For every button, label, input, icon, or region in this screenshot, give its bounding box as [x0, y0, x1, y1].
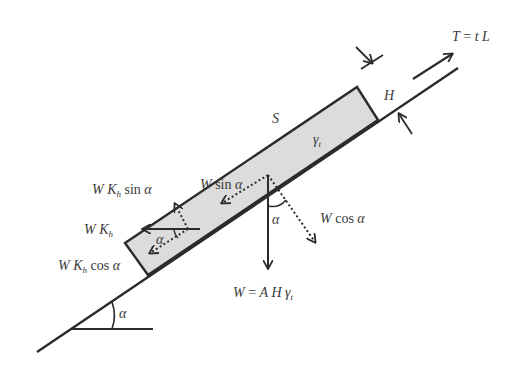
- base-angle-arc: [112, 302, 114, 329]
- wkh-sin-label: W Kh sin α: [92, 182, 152, 199]
- block-alpha-label: α: [156, 232, 164, 247]
- weight-label: W = A H γt: [233, 285, 294, 302]
- center-angle-arc: [268, 200, 286, 206]
- slope-line: [37, 68, 458, 352]
- wkh-cos-label: W Kh cos α: [58, 258, 121, 275]
- surface-label: S: [272, 111, 279, 126]
- thickness-arrow-top: [356, 47, 372, 63]
- wkh-label: W Kh: [84, 222, 114, 239]
- w-sin-label: W sin α: [200, 177, 243, 192]
- center-alpha-label: α: [272, 212, 280, 227]
- thickness-label: H: [383, 88, 395, 103]
- base-alpha-label: α: [119, 306, 127, 321]
- thickness-arrow-bottom: [399, 114, 412, 134]
- slope-diagram: T = t L H S γt W sin α W cos α α W Kh si…: [0, 0, 528, 374]
- tension-label: T = t L: [452, 29, 490, 44]
- w-cos-label: W cos α: [320, 211, 365, 226]
